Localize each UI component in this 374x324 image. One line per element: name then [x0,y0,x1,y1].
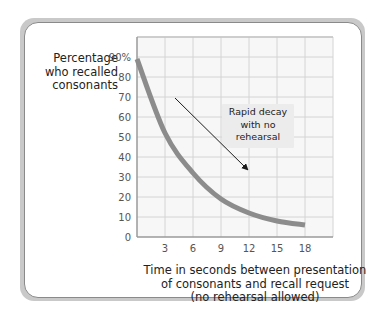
x-axis-ticks: 369121518 [162,243,312,254]
x-axis-title: Time in seconds between presentation of … [140,264,370,305]
x-tick-label: 6 [190,243,196,254]
x-tick-label: 3 [162,243,168,254]
x-axis-title-line: of consonants and recall request [140,278,370,292]
x-axis-title-line: (no rehearsal allowed) [140,291,370,305]
y-tick-label: 30 [118,172,131,183]
y-tick-label: 0 [125,232,131,243]
y-tick-label: 10 [118,212,131,223]
annotation-text: Rapid decay [229,106,288,117]
x-tick-label: 9 [218,243,224,254]
annotation-text: rehearsal [236,131,281,142]
x-tick-label: 12 [243,243,256,254]
x-tick-label: 15 [271,243,284,254]
y-tick-label: 60 [118,112,131,123]
y-tick-label: 40 [118,152,131,163]
y-tick-label: 90% [109,52,131,63]
y-axis-ticks: 0102030405060708090% [109,52,131,243]
annotation-text: with no [240,119,275,130]
y-tick-label: 20 [118,192,131,203]
x-axis-title-line: Time in seconds between presentation [140,264,370,278]
y-tick-label: 80 [118,72,131,83]
y-tick-label: 70 [118,92,131,103]
x-tick-label: 18 [299,243,312,254]
y-tick-label: 50 [118,132,131,143]
